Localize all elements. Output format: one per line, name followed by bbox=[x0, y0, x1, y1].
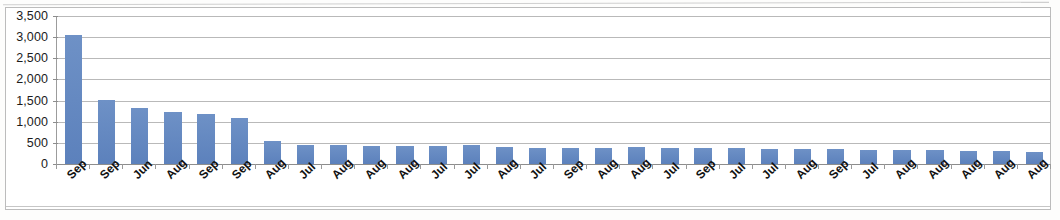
x-axis-tickmark bbox=[1017, 164, 1018, 169]
x-axis-tickmark bbox=[487, 164, 488, 169]
x-axis-tickmark bbox=[652, 164, 653, 169]
x-axis-tickmark bbox=[619, 164, 620, 169]
y-axis-tick-label: 1,000 bbox=[0, 117, 48, 127]
y-axis-tick-label: 0 bbox=[0, 159, 48, 169]
bar bbox=[65, 35, 82, 164]
x-axis-tickmark bbox=[288, 164, 289, 169]
scanned-page-background: 05001,0001,5002,0002,5003,0003,500 SepSe… bbox=[0, 0, 1060, 220]
bar bbox=[131, 108, 148, 164]
x-axis-tickmark bbox=[752, 164, 753, 169]
x-axis-tickmark bbox=[155, 164, 156, 169]
x-axis-tickmark bbox=[851, 164, 852, 169]
x-axis-tickmark bbox=[56, 164, 57, 169]
x-axis-tickmark bbox=[1050, 164, 1051, 169]
x-axis-tickmark bbox=[818, 164, 819, 169]
x-axis-tickmark bbox=[454, 164, 455, 169]
y-axis-tick-label: 500 bbox=[0, 138, 48, 148]
x-axis-tickmark bbox=[255, 164, 256, 169]
x-axis-tickmark bbox=[89, 164, 90, 169]
bar-chart: 05001,0001,5002,0002,5003,0003,500 SepSe… bbox=[0, 0, 1060, 220]
x-axis-tickmark bbox=[189, 164, 190, 169]
x-axis-tickmark bbox=[917, 164, 918, 169]
x-axis-tickmark bbox=[951, 164, 952, 169]
y-axis-labels: 05001,0001,5002,0002,5003,0003,500 bbox=[0, 0, 48, 220]
x-axis-tickmark bbox=[122, 164, 123, 169]
x-axis-tickmark bbox=[387, 164, 388, 169]
bar bbox=[98, 100, 115, 164]
y-axis-tick-label: 3,000 bbox=[0, 32, 48, 42]
y-axis-tick-label: 1,500 bbox=[0, 96, 48, 106]
x-axis-tickmark bbox=[984, 164, 985, 169]
x-axis-tickmark bbox=[785, 164, 786, 169]
x-axis-tickmark bbox=[520, 164, 521, 169]
bar-series bbox=[57, 16, 1051, 164]
y-axis-tick-label: 2,500 bbox=[0, 53, 48, 63]
x-axis-tickmark bbox=[354, 164, 355, 169]
x-axis-tickmark bbox=[686, 164, 687, 169]
plot-area bbox=[56, 16, 1050, 164]
y-axis-tick-label: 3,500 bbox=[0, 11, 48, 21]
x-axis-tickmark bbox=[884, 164, 885, 169]
x-axis-tickmark bbox=[719, 164, 720, 169]
y-axis-tick-label: 2,000 bbox=[0, 74, 48, 84]
x-axis-tickmark bbox=[321, 164, 322, 169]
x-axis-tickmark bbox=[222, 164, 223, 169]
x-axis-tickmark bbox=[586, 164, 587, 169]
bottom-rule bbox=[6, 206, 1050, 207]
x-axis-tickmark bbox=[420, 164, 421, 169]
x-axis-tickmark bbox=[553, 164, 554, 169]
